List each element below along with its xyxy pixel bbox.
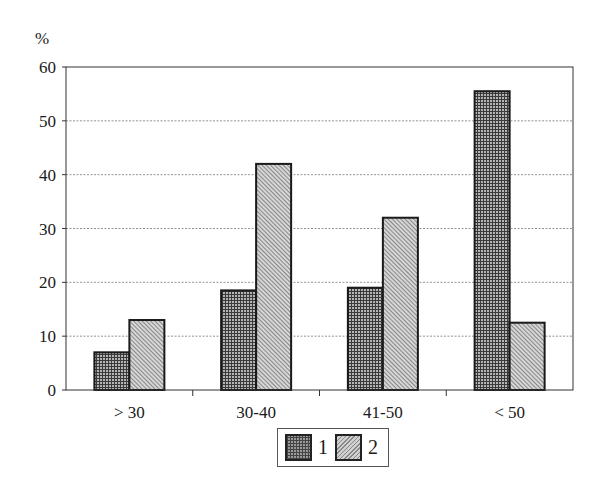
y-unit-label: % (35, 29, 49, 48)
bar-series-1 (348, 288, 383, 390)
y-tick-label: 60 (39, 58, 56, 77)
bar-series-2 (510, 323, 545, 390)
y-axis-ticks: 0102030405060 (39, 58, 66, 400)
legend: 1 2 (277, 428, 389, 467)
bar-chart: % 0102030405060 > 3030-4041-50< 50 (0, 0, 601, 487)
legend-item-series-1: 1 (285, 434, 328, 461)
legend-label: 1 (318, 436, 328, 459)
legend-swatch-crosshatch (285, 434, 312, 461)
y-tick-label: 30 (39, 220, 56, 239)
y-tick-label: 0 (48, 381, 57, 400)
bar-series-1 (475, 91, 510, 390)
bar-series-1 (94, 352, 129, 390)
bar-series-1 (221, 290, 256, 390)
bars (94, 91, 544, 390)
x-axis-labels: > 3030-4041-50< 50 (114, 390, 525, 422)
y-tick-label: 20 (39, 273, 56, 292)
legend-item-series-2: 2 (335, 434, 378, 461)
y-tick-label: 50 (39, 112, 56, 131)
y-tick-label: 40 (39, 166, 56, 185)
legend-label: 2 (368, 436, 378, 459)
x-category-label: < 50 (494, 403, 525, 422)
x-category-label: 41-50 (363, 403, 403, 422)
bar-series-2 (256, 164, 291, 390)
x-category-label: 30-40 (236, 403, 276, 422)
x-category-label: > 30 (114, 403, 145, 422)
legend-swatch-diagonal (335, 434, 362, 461)
bar-series-2 (383, 218, 418, 390)
bar-series-2 (129, 320, 164, 390)
y-tick-label: 10 (39, 327, 56, 346)
